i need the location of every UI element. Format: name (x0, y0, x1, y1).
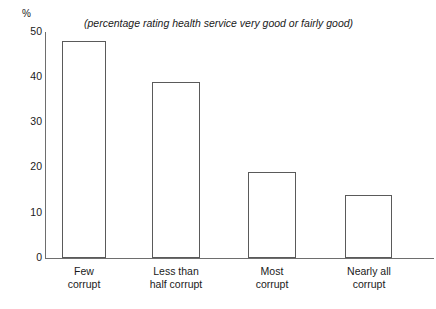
category-label-few-corrupt: Few corrupt (40, 265, 128, 290)
bar-chart: % (percentage rating health service very… (0, 0, 436, 309)
bar-less-than-half (152, 82, 200, 258)
category-label-nearly-all-corrupt: Nearly all corrupt (324, 265, 414, 290)
bar-few-corrupt (62, 41, 106, 258)
category-label-line1: Nearly all (347, 265, 391, 277)
bar-most-corrupt (248, 172, 296, 258)
category-label-line2: corrupt (324, 278, 414, 291)
category-label-less-than-half: Less than half corrupt (130, 265, 222, 290)
category-label-line1: Few (74, 265, 94, 277)
bar-nearly-all-corrupt (345, 195, 392, 258)
category-label-line2: corrupt (228, 278, 316, 291)
category-label-line2: half corrupt (130, 278, 222, 291)
category-label-line2: corrupt (40, 278, 128, 291)
category-label-line1: Most (261, 265, 284, 277)
category-label-line1: Less than (153, 265, 199, 277)
category-label-most-corrupt: Most corrupt (228, 265, 316, 290)
bars-layer (0, 0, 436, 309)
